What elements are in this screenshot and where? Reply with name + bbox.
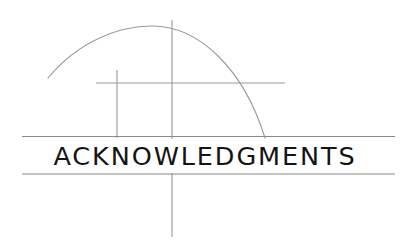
title-layer: ACKNOWLEDGMENTS bbox=[0, 0, 410, 245]
acknowledgments-title-page: ACKNOWLEDGMENTS bbox=[0, 0, 410, 245]
page-title: ACKNOWLEDGMENTS bbox=[0, 139, 410, 173]
